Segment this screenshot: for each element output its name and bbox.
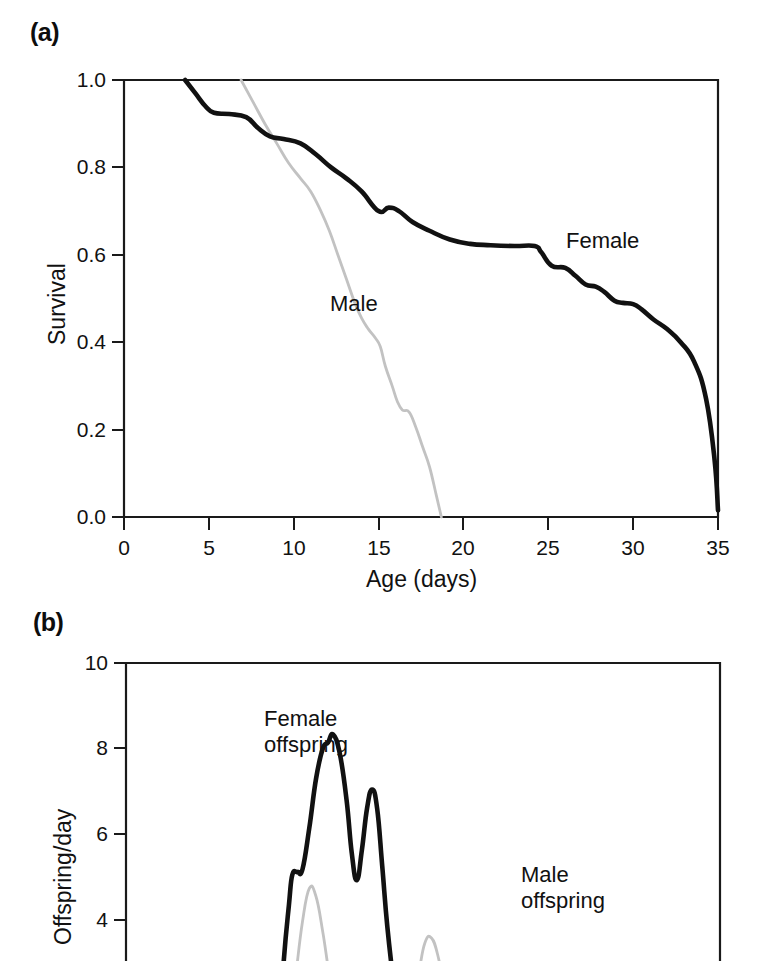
panel-b-frame (126, 663, 720, 961)
female-offspring-series-label: Female offspring (264, 706, 348, 758)
figure-two-panel-survival-offspring: (a) (0, 0, 765, 961)
panel-b-ytick-8: 8 (56, 736, 108, 760)
panel-b-ytick-10: 10 (56, 651, 108, 675)
panel-b: (b) 10 8 6 4 (0, 0, 765, 961)
panel-b-plot-area (0, 0, 765, 961)
male-offspring-series-label: Male offspring (521, 862, 605, 914)
panel-b-y-ticks (114, 663, 126, 920)
panel-b-y-axis-title: Offspring/day (50, 809, 77, 945)
panel-b-female-offspring-curve (272, 734, 406, 961)
